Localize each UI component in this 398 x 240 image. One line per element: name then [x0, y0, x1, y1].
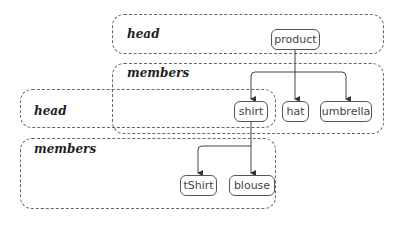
node-tshirt[interactable]: tShirt: [180, 175, 217, 196]
edge-product-umbrella: [295, 72, 346, 99]
node-shirt[interactable]: shirt: [234, 101, 268, 122]
node-blouse[interactable]: blouse: [229, 175, 275, 196]
edge-product-shirt: [251, 72, 295, 99]
edge-shirt-tshirt: [198, 146, 251, 173]
node-product[interactable]: product: [271, 29, 320, 50]
node-hat[interactable]: hat: [282, 101, 309, 122]
node-umbrella[interactable]: umbrella: [320, 101, 372, 122]
